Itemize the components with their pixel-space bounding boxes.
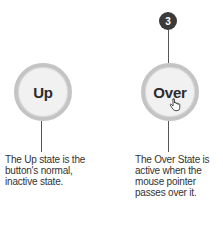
badge-connector-line bbox=[168, 30, 169, 63]
up-state-label: Up bbox=[33, 84, 53, 101]
hand-pointer-icon bbox=[169, 98, 181, 112]
over-connector-line bbox=[168, 121, 169, 152]
up-connector-line bbox=[41, 121, 42, 152]
up-state-button: Up bbox=[14, 63, 72, 121]
over-state-caption: The Over State is active when the mouse … bbox=[135, 154, 220, 198]
step-badge: 3 bbox=[159, 12, 177, 30]
over-state-button: Over bbox=[141, 63, 199, 121]
up-state-caption: The Up state is the button's normal, ina… bbox=[5, 154, 100, 187]
